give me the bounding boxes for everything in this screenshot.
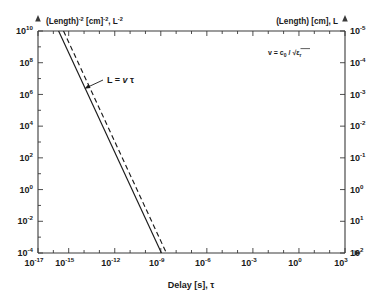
chart-background bbox=[0, 0, 380, 301]
chart-svg: 10-1710-1510-1210-910-610-3100103 101010… bbox=[0, 0, 380, 301]
y-right-axis-title: (Length) [cm], L bbox=[276, 17, 338, 26]
x-axis-title: Delay [s], τ bbox=[168, 280, 215, 290]
chart-figure: 10-1710-1510-1210-910-610-3100103 101010… bbox=[0, 0, 380, 301]
relation-label: L = v τ bbox=[107, 75, 134, 85]
y-left-axis-title: (Length)-2 [cm]-2, L-2 bbox=[46, 16, 123, 26]
